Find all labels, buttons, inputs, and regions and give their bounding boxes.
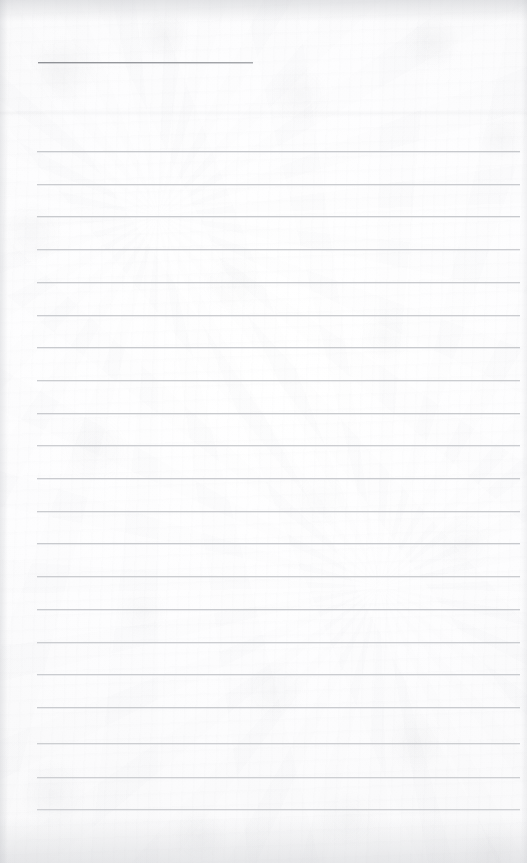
ruled-line <box>37 282 520 283</box>
ruled-line <box>37 445 520 446</box>
scan-shadow-bottom-edge <box>0 817 527 863</box>
scan-shadow-right-edge <box>521 0 527 863</box>
short-top-rule <box>38 62 253 63</box>
ruled-line <box>37 511 520 512</box>
ruled-line <box>37 216 520 217</box>
ruled-line <box>37 642 520 643</box>
ruled-line <box>37 674 520 675</box>
scanned-page <box>0 0 527 863</box>
ruled-line <box>37 576 520 577</box>
ruled-line <box>37 315 520 316</box>
ruled-line <box>37 478 520 479</box>
ruled-line <box>37 809 520 810</box>
ruled-line <box>37 151 520 152</box>
ruled-line <box>37 184 520 185</box>
scan-shadow-top-edge <box>0 0 527 22</box>
ruled-line <box>37 249 520 250</box>
ruled-line <box>37 413 520 414</box>
ruled-line <box>37 347 520 348</box>
ruled-line <box>37 609 520 610</box>
ruled-line <box>37 743 520 744</box>
ruled-line <box>37 707 520 708</box>
scan-shadow-left-edge <box>0 0 8 863</box>
ruled-line <box>37 777 520 778</box>
ruled-line <box>37 380 520 381</box>
horizontal-fold-band <box>0 110 527 117</box>
ruled-line <box>37 543 520 544</box>
paper-texture-grain <box>0 0 527 863</box>
